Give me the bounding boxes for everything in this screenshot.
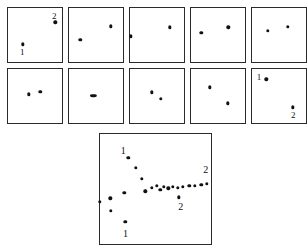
data-point <box>98 200 101 203</box>
data-point <box>199 183 202 186</box>
panel-5 <box>251 7 307 63</box>
data-point <box>150 91 153 94</box>
data-point <box>90 94 96 98</box>
data-point <box>171 185 174 188</box>
scatter-figure: 21121122 <box>0 0 308 250</box>
data-point <box>54 21 57 24</box>
data-point <box>159 188 162 191</box>
data-point <box>124 220 127 223</box>
data-point <box>150 186 153 189</box>
point-label: 1 <box>121 146 126 156</box>
data-point <box>21 42 24 45</box>
data-point <box>143 189 146 192</box>
data-point <box>109 209 112 212</box>
point-label: 2 <box>178 202 183 212</box>
data-point <box>134 166 137 169</box>
panel-3 <box>129 7 185 63</box>
data-point <box>167 187 170 190</box>
panel-1: 21 <box>7 7 63 63</box>
data-point <box>159 97 162 100</box>
data-point <box>109 24 112 27</box>
data-point <box>177 196 180 199</box>
data-point <box>108 197 111 200</box>
data-point <box>181 185 184 188</box>
data-point <box>123 191 126 194</box>
data-point <box>38 90 41 93</box>
data-point <box>266 29 269 32</box>
data-point <box>193 184 196 187</box>
data-point <box>200 31 203 34</box>
data-point <box>291 106 294 109</box>
panel-4 <box>190 7 246 63</box>
data-point <box>226 102 229 105</box>
data-point <box>127 156 130 159</box>
data-point <box>208 85 211 88</box>
point-label: 2 <box>52 12 57 21</box>
data-point <box>168 26 171 29</box>
point-label: 2 <box>291 111 296 120</box>
panel-7 <box>68 68 124 124</box>
data-point <box>286 25 289 28</box>
data-point <box>265 78 268 81</box>
point-label: 1 <box>20 47 25 56</box>
data-point <box>129 35 132 38</box>
data-point <box>79 38 82 41</box>
data-point <box>176 186 179 189</box>
data-point <box>227 26 230 29</box>
data-point <box>155 184 158 187</box>
data-point <box>205 182 208 185</box>
panel-6 <box>7 68 63 124</box>
data-point <box>140 177 143 180</box>
point-label: 1 <box>257 73 262 82</box>
data-point <box>162 185 165 188</box>
panel-10: 12 <box>251 68 307 124</box>
panel-9 <box>190 68 246 124</box>
data-point <box>188 184 191 187</box>
point-label: 1 <box>123 229 128 239</box>
panel-2 <box>68 7 124 63</box>
data-point <box>27 93 30 96</box>
panel-8 <box>129 68 185 124</box>
panel-large: 1122 <box>99 133 212 245</box>
point-label: 2 <box>203 165 208 175</box>
